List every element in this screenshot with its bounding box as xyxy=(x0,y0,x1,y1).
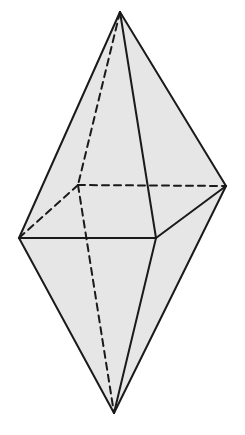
diagram-canvas xyxy=(0,0,245,435)
solid-faces xyxy=(19,12,226,413)
bipyramid-diagram xyxy=(0,0,245,435)
solid-fill xyxy=(19,12,226,413)
